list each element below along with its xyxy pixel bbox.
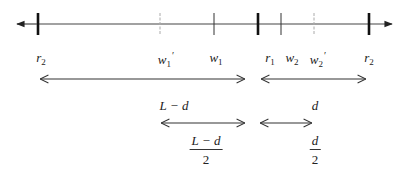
label-r2-left: r2 [36, 51, 46, 67]
label-base: w [158, 52, 167, 67]
label-r2-right: r2 [364, 51, 374, 67]
label-r1: r1 [265, 51, 275, 67]
fraction-half-d: d 2 [310, 134, 321, 166]
label-w1-prime: w1′ [158, 51, 174, 69]
label-base: w [285, 50, 294, 65]
label-w1: w1 [209, 51, 222, 67]
label-sub: 2 [369, 57, 374, 67]
fraction-numerator: d [310, 134, 321, 150]
label-base: w [209, 50, 218, 65]
fraction-half-L-minus-d: L − d 2 [190, 134, 223, 166]
label-base: w [310, 52, 319, 67]
label-sub: 1 [218, 57, 223, 67]
fraction-numerator: L − d [190, 134, 223, 150]
span-label-d: d [312, 99, 319, 112]
label-sub: 2 [294, 57, 299, 67]
label-prime: ′ [324, 50, 326, 61]
span-label-L-minus-d: L − d [160, 99, 189, 112]
label-sub: 1 [270, 57, 275, 67]
label-w2-prime: w2′ [310, 51, 326, 69]
label-sub: 2 [318, 59, 323, 69]
fraction-denominator: 2 [190, 150, 223, 166]
label-sub: 1 [166, 59, 171, 69]
label-sub: 2 [41, 57, 46, 67]
label-w2: w2 [285, 51, 298, 67]
fraction-denominator: 2 [310, 150, 321, 166]
label-prime: ′ [172, 50, 174, 61]
